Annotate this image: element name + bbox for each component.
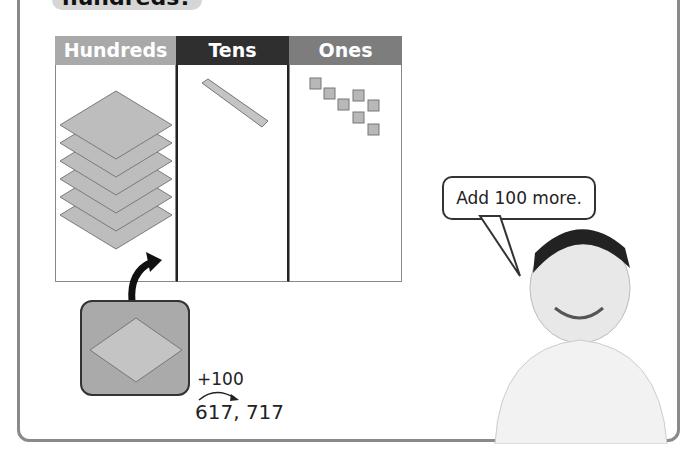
hundreds-header: Hundreds [55, 36, 176, 65]
tens-blocks [176, 65, 289, 282]
unit-cubes-icon [290, 65, 401, 282]
tens-column: Tens [176, 36, 289, 282]
added-hundred-flat [80, 300, 190, 396]
tens-header: Tens [176, 36, 289, 65]
hundred-flat-icon [82, 302, 188, 394]
place-value-chart: Hundreds Tens Ones [55, 36, 402, 282]
boy-photo [485, 228, 675, 444]
ones-header: Ones [289, 36, 402, 65]
ten-rod-icon [178, 65, 287, 282]
ones-column: Ones [289, 36, 402, 282]
heading-text: hundreds? [52, 0, 202, 10]
increment-label: +100 [197, 369, 244, 389]
number-sequence: 617, 717 [195, 400, 284, 424]
ones-blocks [289, 65, 402, 282]
curved-arrow-icon [120, 250, 170, 305]
hundreds-column: Hundreds [55, 36, 176, 282]
